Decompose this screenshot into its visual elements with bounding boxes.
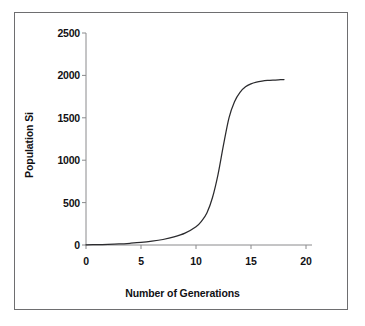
y-tick-label: 1500 xyxy=(44,112,80,124)
x-tick-label: 10 xyxy=(190,255,201,267)
y-tick-label: 2000 xyxy=(44,69,80,81)
y-tick-label: 0 xyxy=(44,239,80,251)
chart-figure: 05001000150020002500 05101520 Population… xyxy=(0,0,365,326)
population-curve xyxy=(86,80,284,245)
x-tick-label: 15 xyxy=(245,255,256,267)
y-tick-label: 2500 xyxy=(44,27,80,39)
y-axis-title-text: Population Si xyxy=(23,112,35,178)
y-axis-title: Population Si xyxy=(22,90,36,200)
x-axis-title: Number of Generations xyxy=(0,287,365,299)
x-tick-label: 5 xyxy=(138,255,144,267)
axis-lines xyxy=(86,33,312,245)
y-tick-label: 500 xyxy=(44,197,80,209)
y-axis-tick-marks xyxy=(82,33,86,245)
x-tick-label: 0 xyxy=(83,255,89,267)
x-tick-label: 20 xyxy=(300,255,311,267)
y-tick-label: 1000 xyxy=(44,154,80,166)
x-axis-tick-marks xyxy=(86,245,306,249)
